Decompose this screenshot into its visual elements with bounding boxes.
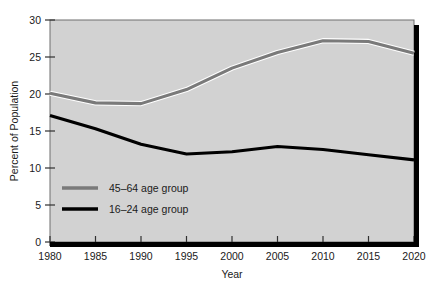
legend-label-0: 45–64 age group [109, 182, 189, 194]
x-tick-label: 2005 [266, 250, 290, 262]
y-tick-label: 0 [35, 236, 41, 248]
y-tick-label: 15 [29, 125, 41, 137]
chart-container: 051015202530 198019851990199520002005201… [0, 0, 428, 289]
x-tick-label: 2000 [220, 250, 244, 262]
y-tick-label: 30 [29, 14, 41, 26]
x-tick-label: 2020 [402, 250, 426, 262]
x-axis-title: Year [221, 268, 243, 280]
x-tick-label: 1990 [129, 250, 153, 262]
x-tick-label: 1980 [38, 250, 62, 262]
y-axis-title: Percent of Population [8, 81, 20, 182]
y-tick-label: 25 [29, 51, 41, 63]
y-tick-label: 5 [35, 199, 41, 211]
right-axis-band [414, 25, 419, 247]
x-tick-label: 2015 [357, 250, 381, 262]
x-tick-label: 1995 [175, 250, 199, 262]
y-tick-label: 20 [29, 88, 41, 100]
x-tick-label: 2010 [311, 250, 335, 262]
x-tick-label: 1985 [84, 250, 108, 262]
legend-label-1: 16–24 age group [109, 203, 189, 215]
x-axis-baseline [50, 242, 419, 247]
line-chart: 051015202530 198019851990199520002005201… [0, 0, 428, 289]
y-tick-label: 10 [29, 162, 41, 174]
